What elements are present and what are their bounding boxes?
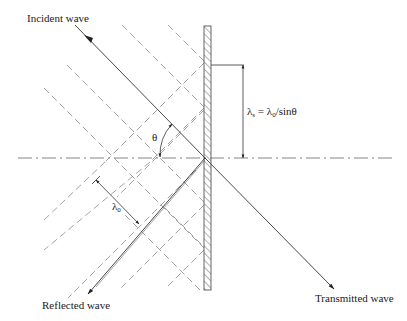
reflected-ray	[88, 158, 205, 294]
reflected-wave-label: Reflected wave	[42, 299, 110, 311]
lambda0-label: λ0	[112, 200, 121, 214]
reflected-ray-parallel	[96, 160, 205, 287]
lambda0-dimension	[96, 180, 139, 224]
incident-wave-label: Incident wave	[27, 12, 89, 24]
lambda-s-formula: λs = λ0/sinθ	[247, 105, 297, 119]
wave-diagram: θ λ0 λs = λ0/sinθ Incident wave Reflecte…	[0, 0, 407, 321]
transmitted-wave-label: Transmitted wave	[315, 292, 394, 304]
reflected-wavefronts	[44, 63, 204, 298]
transmitted-ray	[205, 158, 334, 289]
incident-wavefronts	[44, 25, 204, 290]
theta-label: θ	[152, 131, 157, 143]
